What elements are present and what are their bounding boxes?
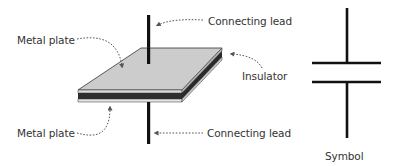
leader-connecting-lead-top (158, 20, 203, 25)
capacitor-symbol-icon (312, 8, 381, 138)
insulator-front-band (78, 93, 182, 99)
label-insulator: Insulator (242, 70, 287, 82)
label-connecting-lead-top: Connecting lead (208, 15, 292, 27)
capacitor-plate-assembly (78, 48, 222, 102)
bottom-connecting-lead (147, 102, 150, 144)
label-symbol: Symbol (325, 150, 364, 162)
label-metal-plate-top: Metal plate (17, 34, 75, 46)
leader-metal-plate-bottom (77, 108, 110, 135)
leader-metal-plate-top (77, 38, 122, 66)
diagram-graphics (0, 0, 396, 166)
label-metal-plate-bottom: Metal plate (17, 127, 75, 139)
plate-front-edge-bottom (78, 99, 182, 102)
capacitor-diagram: Metal plate Metal plate Connecting lead … (0, 0, 396, 166)
plate-front-edge-top (78, 90, 182, 93)
leader-insulator (232, 54, 262, 68)
label-connecting-lead-bottom: Connecting lead (207, 127, 291, 139)
